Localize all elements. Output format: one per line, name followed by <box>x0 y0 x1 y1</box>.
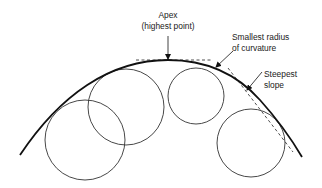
steepest-slope-label-line2: slope <box>264 80 284 90</box>
curvature-circle-3 <box>168 68 224 124</box>
steepest-slope-label-line1: Steepest <box>264 69 298 79</box>
curvature-circle-2 <box>88 69 164 145</box>
steepest-slope-arrow <box>247 72 262 90</box>
curvature-diagram: Apex (highest point) Smallest radius of … <box>0 0 322 188</box>
apex-label-line2: (highest point) <box>141 21 194 31</box>
curvature-circle-4 <box>217 109 285 177</box>
curvature-circle-1 <box>45 100 125 180</box>
apex-label-line1: Apex <box>158 10 178 20</box>
smallest-radius-label-line1: Smallest radius <box>232 32 289 42</box>
smallest-radius-label-line2: of curvature <box>232 43 277 53</box>
smallest-radius-arrow <box>216 51 233 67</box>
